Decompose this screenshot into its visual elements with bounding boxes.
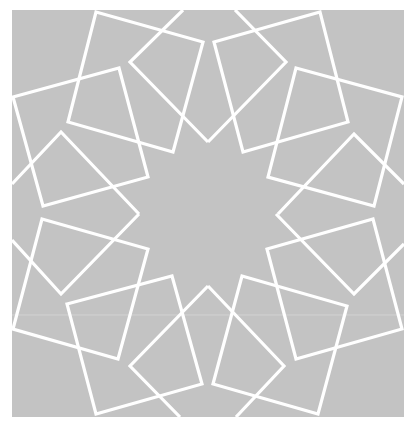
- geometric-pattern-canvas: [0, 0, 416, 428]
- geometric-pattern-svg: [0, 0, 416, 428]
- gray-panel: [12, 10, 404, 417]
